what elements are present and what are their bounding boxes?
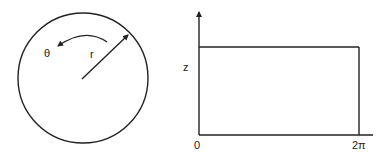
z-axis-label: z — [183, 61, 189, 73]
x-origin-label: 0 — [194, 139, 200, 151]
radius-arrow — [82, 35, 128, 79]
theta-label: θ — [44, 47, 50, 59]
circle-cross-section: θ r — [18, 13, 148, 143]
x-end-label: 2π — [352, 139, 366, 151]
radius-label: r — [90, 48, 94, 60]
cylinder-mapping-diagram: θ r z 0 2π — [0, 0, 390, 155]
theta-rotation-arrow — [58, 35, 107, 46]
unrolled-surface-plot: z 0 2π — [183, 12, 373, 151]
